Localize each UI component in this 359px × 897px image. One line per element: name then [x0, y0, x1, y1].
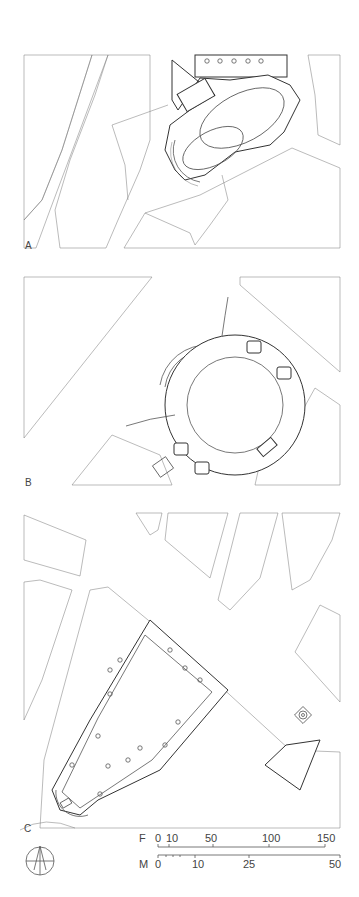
scale-tick: 10 [166, 832, 178, 844]
scale-tick: 50 [329, 858, 341, 870]
plan-a: A [24, 55, 340, 251]
plan-b: B [24, 277, 340, 488]
scale-tick: 25 [243, 858, 255, 870]
fountain [295, 707, 312, 724]
plan-label-c: C [24, 823, 31, 834]
scale-tick: 10 [192, 858, 204, 870]
scale-unit-feet: F [139, 832, 146, 844]
scale-tick: 0 [155, 858, 161, 870]
scale-bar-meters: M 0 10 25 50 [139, 855, 341, 870]
scale-tick: 50 [205, 832, 217, 844]
scale-bar-feet: F 0 10 50 100 150 [139, 832, 335, 847]
north-arrow-icon [26, 846, 54, 875]
plan-drawing: A B [0, 0, 359, 897]
plan-c: C [20, 513, 340, 834]
scale-tick: 100 [262, 832, 280, 844]
scale-tick: 150 [317, 832, 335, 844]
plan-label-a: A [25, 240, 32, 251]
plan-label-b: B [25, 477, 32, 488]
scale-tick: 0 [155, 832, 161, 844]
scale-unit-meters: M [139, 858, 148, 870]
